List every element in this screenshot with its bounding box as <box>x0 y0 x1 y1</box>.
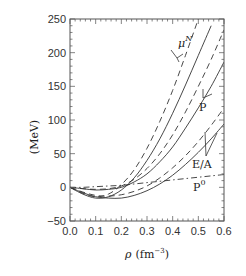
x-tick-label: 0.2 <box>114 225 129 237</box>
x-tick-label: 0.6 <box>216 225 231 237</box>
x-tick-label: 0.3 <box>139 225 154 237</box>
annotation-p: P <box>199 101 207 114</box>
x-tick-label: 0.1 <box>88 225 103 237</box>
y-tick-label: 0 <box>60 181 66 193</box>
y-tick-label: 250 <box>48 13 66 25</box>
annotation-p0: P0 <box>193 178 206 194</box>
y-tick-label: 150 <box>48 80 66 92</box>
y-axis-title: (MeV) <box>28 120 41 154</box>
annotation-mu-n-pointer <box>171 50 179 62</box>
x-tick-label: 0.5 <box>191 225 206 237</box>
annotation-mu-n-pointer <box>177 54 183 58</box>
y-tick-label: 200 <box>48 47 66 59</box>
series-line <box>70 26 211 199</box>
annotation-mu-n: μN <box>178 34 193 50</box>
chart-root: −500501001502002500.00.10.20.30.40.50.6 … <box>0 0 246 276</box>
annotation-e-over-a: E/A <box>192 158 213 171</box>
annotation-p-pointer <box>203 94 212 98</box>
x-tick-label: 0.4 <box>165 225 180 237</box>
tick-labels: −500501001502002500.00.10.20.30.40.50.6 <box>47 13 231 237</box>
y-tick-label: 100 <box>48 114 66 126</box>
x-axis-title: ρ(fm−3) <box>124 247 169 261</box>
annotation-ea-pointer <box>205 132 206 156</box>
x-tick-label: 0.0 <box>62 225 77 237</box>
annotation-ea-pointer <box>206 133 217 156</box>
y-tick-label: 50 <box>54 148 66 160</box>
